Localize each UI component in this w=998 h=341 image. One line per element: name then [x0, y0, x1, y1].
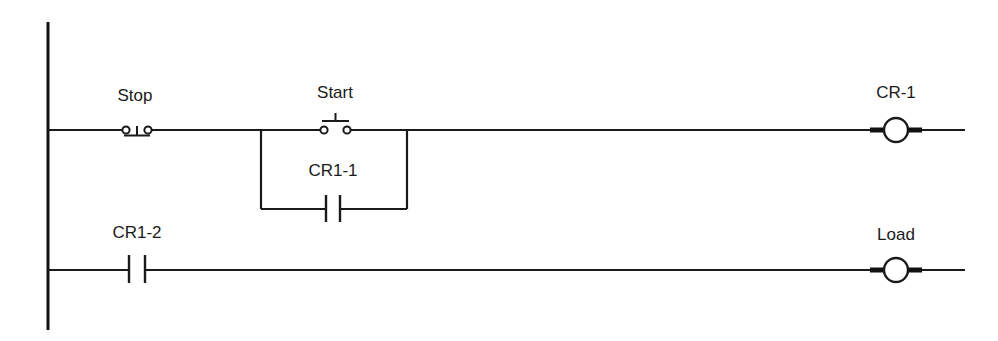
ladder-diagram: Stop Start CR1-1 CR-1 CR1-2 Load	[0, 0, 998, 341]
stop-pushbutton-nc-icon	[122, 126, 151, 136]
load-coil-icon	[870, 258, 965, 282]
start-label: Start	[317, 83, 353, 102]
load-label: Load	[877, 225, 915, 244]
ladder-diagram-svg: Stop Start CR1-1 CR-1 CR1-2 Load	[0, 0, 998, 341]
cr1-2-label: CR1-2	[112, 223, 161, 242]
start-pushbutton-no-icon	[320, 113, 350, 134]
cr1-1-label: CR1-1	[308, 161, 357, 180]
rung-2: CR1-2 Load	[48, 223, 965, 283]
cr-1-coil-icon	[870, 118, 965, 142]
cr1-2-contact-no-icon	[129, 255, 145, 283]
cr1-1-contact-no-icon	[326, 195, 340, 222]
cr-1-label: CR-1	[876, 83, 916, 102]
stop-label: Stop	[118, 86, 153, 105]
rung-1: Stop Start CR1-1 CR-1	[48, 83, 965, 222]
